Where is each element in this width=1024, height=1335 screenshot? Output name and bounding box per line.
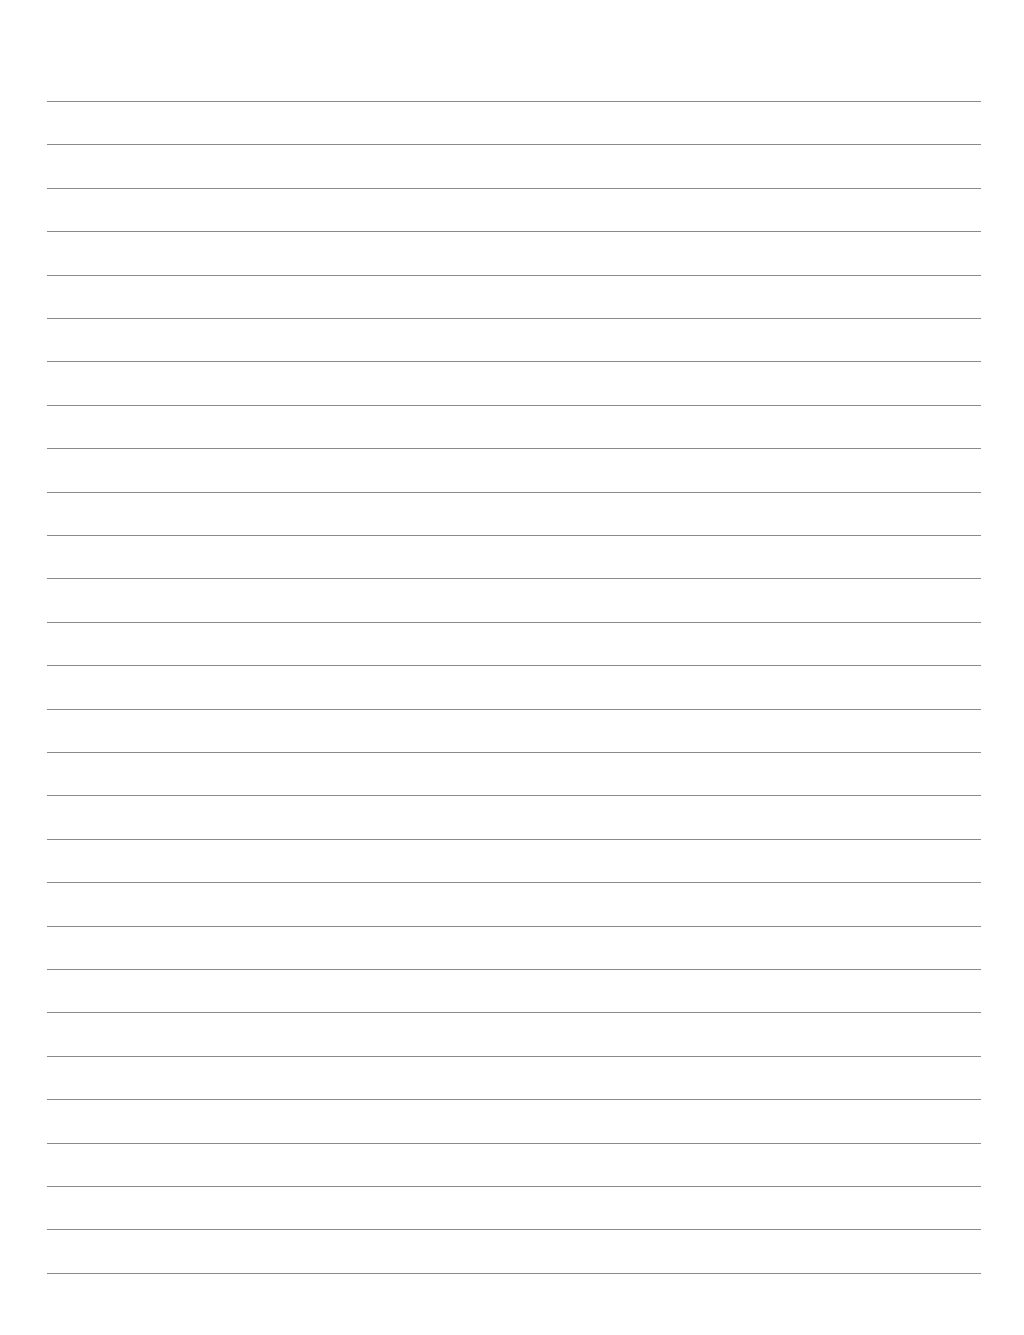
ruled-line bbox=[47, 492, 981, 493]
ruled-line bbox=[47, 101, 981, 102]
ruled-line bbox=[47, 1273, 981, 1274]
ruled-line bbox=[47, 1186, 981, 1187]
ruled-line bbox=[47, 839, 981, 840]
ruled-line bbox=[47, 882, 981, 883]
ruled-line bbox=[47, 361, 981, 362]
ruled-line bbox=[47, 795, 981, 796]
ruled-line bbox=[47, 231, 981, 232]
ruled-line bbox=[47, 144, 981, 145]
ruled-line bbox=[47, 665, 981, 666]
ruled-line bbox=[47, 709, 981, 710]
ruled-line bbox=[47, 1229, 981, 1230]
ruled-line bbox=[47, 752, 981, 753]
ruled-line bbox=[47, 926, 981, 927]
ruled-line bbox=[47, 448, 981, 449]
ruled-line bbox=[47, 1012, 981, 1013]
ruled-line bbox=[47, 1143, 981, 1144]
ruled-line bbox=[47, 405, 981, 406]
ruled-line bbox=[47, 1056, 981, 1057]
ruled-line bbox=[47, 578, 981, 579]
ruled-line bbox=[47, 622, 981, 623]
ruled-line bbox=[47, 318, 981, 319]
ruled-line bbox=[47, 188, 981, 189]
ruled-line bbox=[47, 1099, 981, 1100]
ruled-line bbox=[47, 275, 981, 276]
ruled-line bbox=[47, 969, 981, 970]
ruled-line bbox=[47, 535, 981, 536]
